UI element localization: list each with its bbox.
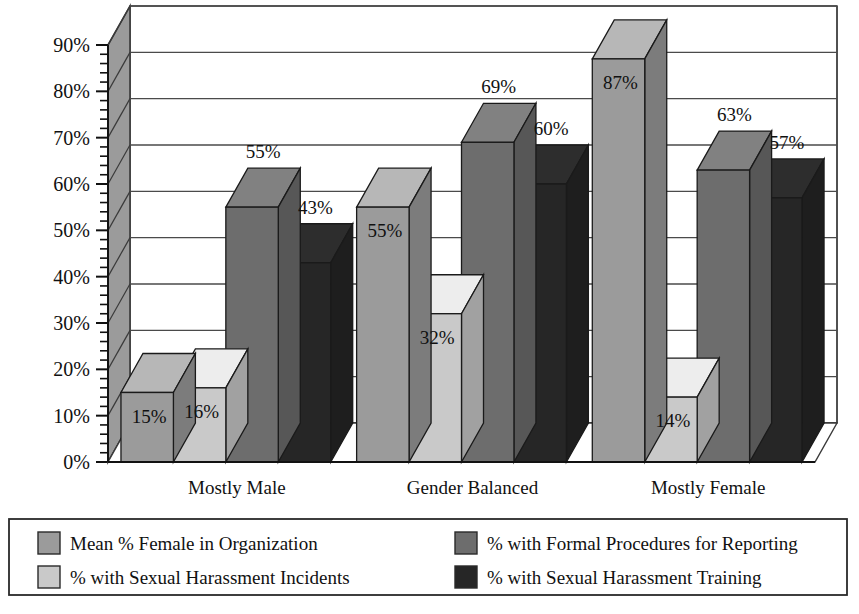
y-axis-labels: 90%80%70%60%50%40%30%20%10%0% <box>53 34 90 473</box>
bar-side-face <box>802 159 824 462</box>
bar-chart-3d: 90%80%70%60%50%40%30%20%10%0% 15%16%55%4… <box>0 0 859 614</box>
y-axis-tick-label: 0% <box>63 451 90 473</box>
legend-item: Mean % Female in Organization <box>38 532 318 554</box>
legend-label: % with Sexual Harassment Incidents <box>70 567 350 588</box>
data-label: 32% <box>420 327 455 348</box>
legend-swatch <box>455 566 477 588</box>
y-axis-tick-label: 30% <box>53 312 90 334</box>
bar-side-face <box>409 168 431 462</box>
legend-item: % with Formal Procedures for Reporting <box>455 532 798 554</box>
bar-side-face <box>278 168 300 462</box>
data-label: 55% <box>367 220 402 241</box>
bar-front-face <box>121 393 173 463</box>
y-axis-tick-label: 80% <box>53 80 90 102</box>
bar-side-face <box>566 145 588 462</box>
data-label: 57% <box>769 132 804 153</box>
legend-label: % with Sexual Harassment Training <box>487 567 762 588</box>
bar-front-face <box>592 59 644 462</box>
category-label: Mostly Male <box>188 477 286 498</box>
data-label: 14% <box>656 410 691 431</box>
chart-svg: 90%80%70%60%50%40%30%20%10%0% 15%16%55%4… <box>0 0 859 614</box>
bar-side-face <box>750 131 772 462</box>
category-label: Gender Balanced <box>407 477 539 498</box>
legend-item: % with Sexual Harassment Incidents <box>38 566 350 588</box>
legend-swatch <box>38 532 60 554</box>
y-axis-tick-label: 10% <box>53 405 90 427</box>
data-label: 55% <box>246 141 281 162</box>
category-labels: Mostly MaleGender BalancedMostly Female <box>188 477 765 498</box>
bar-front-face <box>357 207 409 462</box>
data-label: 43% <box>298 197 333 218</box>
y-axis-tick-label: 20% <box>53 358 90 380</box>
y-axis-ticks <box>96 45 108 462</box>
data-label: 15% <box>132 406 167 427</box>
bar-side-face <box>514 103 536 462</box>
y-axis-tick-label: 60% <box>53 173 90 195</box>
data-label: 16% <box>184 401 219 422</box>
data-label: 60% <box>534 118 569 139</box>
y-axis-tick-label: 40% <box>53 266 90 288</box>
legend-label: Mean % Female in Organization <box>70 533 318 554</box>
y-axis-tick-label: 90% <box>53 34 90 56</box>
bar <box>357 168 431 462</box>
data-label: 69% <box>481 76 516 97</box>
legend-label: % with Formal Procedures for Reporting <box>487 533 798 554</box>
data-label: 63% <box>717 104 752 125</box>
legend-item: % with Sexual Harassment Training <box>455 566 762 588</box>
legend: Mean % Female in Organization% with Sexu… <box>9 519 847 595</box>
data-label: 87% <box>603 72 638 93</box>
legend-swatch <box>38 566 60 588</box>
legend-swatch <box>455 532 477 554</box>
bar-side-face <box>645 20 667 462</box>
y-axis-tick-label: 70% <box>53 127 90 149</box>
bar-side-face <box>331 224 353 462</box>
category-label: Mostly Female <box>651 477 766 498</box>
y-axis-tick-label: 50% <box>53 219 90 241</box>
